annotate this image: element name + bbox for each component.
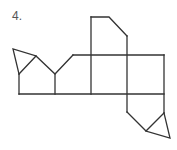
bottom-pentagon-face bbox=[127, 112, 164, 131]
top-pentagon-face bbox=[91, 17, 127, 36]
net-diagram bbox=[0, 0, 177, 150]
left-triangle-face bbox=[13, 49, 36, 74]
left-pentagon-face bbox=[19, 55, 73, 74]
right-triangle-face bbox=[146, 113, 170, 138]
